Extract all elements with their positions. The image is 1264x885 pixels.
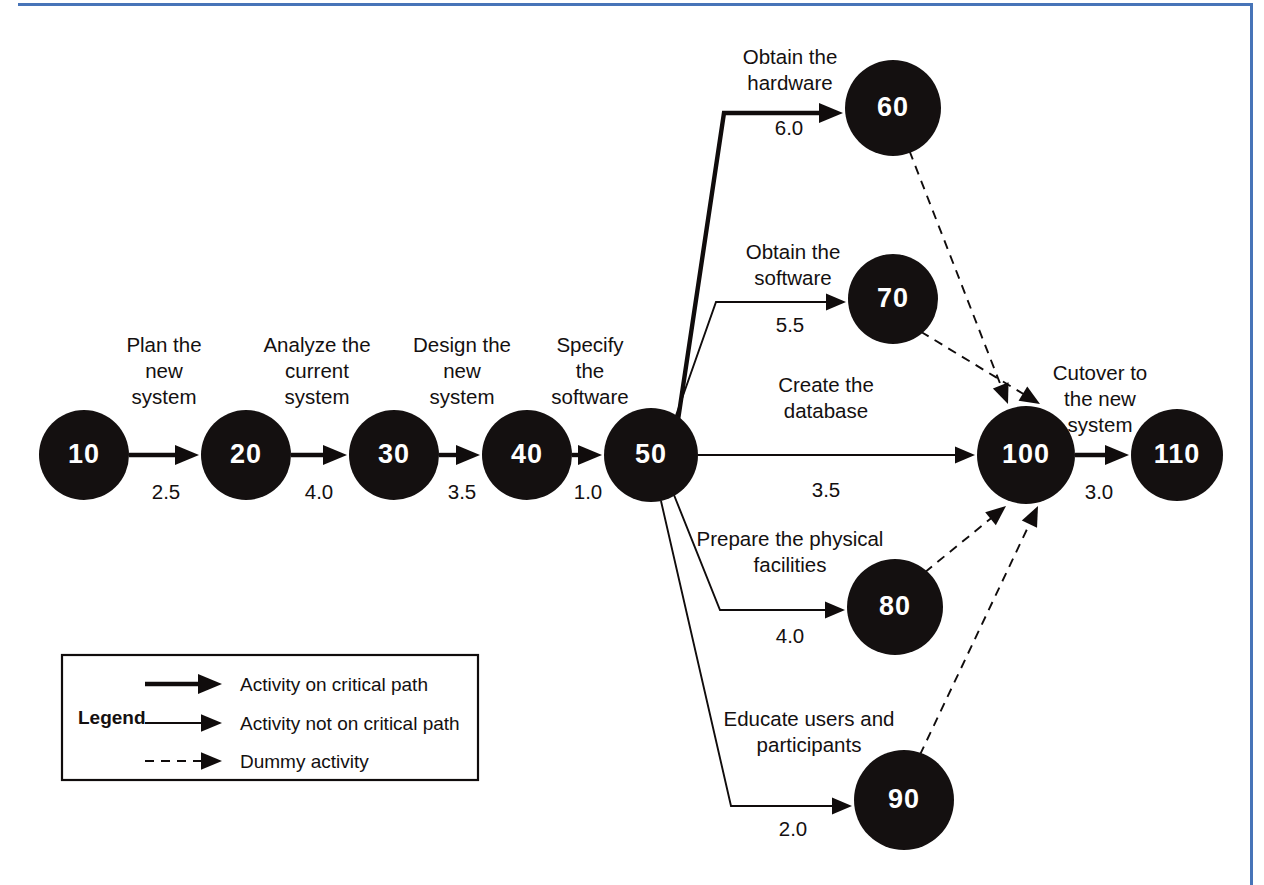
activity-name-line: hardware: [747, 71, 832, 94]
activity-label-a10-20: Plan thenewsystem2.5: [126, 333, 201, 503]
edge-50-to-90-arrow-icon: [832, 798, 852, 815]
edge-40-to-50-arrow-icon: [578, 445, 602, 465]
activity-duration-a40-50: 1.0: [574, 480, 603, 503]
edge-90-to-100-line: [920, 522, 1030, 754]
edge-50-to-80-arrow-icon: [825, 602, 845, 619]
node-label-30: 30: [378, 439, 410, 469]
node-label-60: 60: [877, 92, 909, 122]
node-10[interactable]: 10: [39, 410, 129, 500]
activity-name-a100-110: Cutover tothe newsystem: [1053, 361, 1148, 436]
node-30[interactable]: 30: [349, 410, 439, 500]
activity-name-a50-90: Educate users andparticipants: [724, 707, 895, 756]
edge-10-to-20-arrow-icon: [175, 445, 199, 465]
activity-name-a40-50: Specifythesoftware: [551, 333, 628, 408]
edge-80-to-100-line: [925, 517, 992, 572]
activity-duration-a10-20: 2.5: [152, 480, 181, 503]
edge-70-to-100-arrow-icon: [1019, 386, 1040, 404]
node-label-100: 100: [1002, 439, 1050, 469]
page-canvas: 102030405060708090100110 Plan thenewsyst…: [0, 0, 1264, 885]
activity-name-line: Obtain the: [743, 45, 838, 68]
activity-duration-a50-60: 6.0: [775, 116, 804, 139]
activity-name-line: software: [551, 385, 628, 408]
edge-100-to-110: [1075, 445, 1129, 465]
edge-80-to-100-arrow-icon: [985, 506, 1006, 525]
node-label-70: 70: [877, 283, 909, 313]
edge-70-to-100-line: [921, 332, 1025, 395]
activity-duration-a30-40: 3.5: [448, 480, 477, 503]
node-100[interactable]: 100: [977, 406, 1075, 504]
activity-name-line: system: [132, 385, 197, 408]
edge-10-to-20: [129, 445, 199, 465]
edge-90-to-100-arrow-icon: [1022, 506, 1038, 528]
activity-name-line: Specify: [556, 333, 624, 356]
activity-name-line: Prepare the physical: [697, 527, 884, 550]
legend-label-critical: Activity on critical path: [240, 674, 428, 695]
node-label-10: 10: [68, 439, 100, 469]
activity-name-line: software: [754, 266, 831, 289]
edge-50-to-70-arrow-icon: [826, 294, 846, 311]
activity-label-a50-70: Obtain thesoftware5.5: [746, 240, 841, 336]
node-90[interactable]: 90: [854, 750, 954, 850]
activity-duration-a50-90: 2.0: [779, 817, 808, 840]
legend-label-dummy: Dummy activity: [240, 751, 369, 772]
node-70[interactable]: 70: [848, 254, 938, 344]
legend-label-normal: Activity not on critical path: [240, 713, 460, 734]
node-label-80: 80: [879, 591, 911, 621]
activity-name-line: facilities: [754, 553, 827, 576]
activity-name-line: Create the: [778, 373, 874, 396]
edge-80-to-100: [925, 506, 1006, 572]
activity-name-line: Educate users and: [724, 707, 895, 730]
activity-name-line: Cutover to: [1053, 361, 1148, 384]
node-20[interactable]: 20: [201, 410, 291, 500]
node-label-110: 110: [1154, 439, 1201, 469]
activity-label-a50-100: Create thedatabase3.5: [778, 373, 874, 501]
activity-name-line: the: [576, 359, 605, 382]
activity-name-a50-60: Obtain thehardware: [743, 45, 838, 94]
node-110[interactable]: 110: [1131, 409, 1223, 501]
node-40[interactable]: 40: [482, 410, 572, 500]
node-label-20: 20: [230, 439, 262, 469]
activity-name-line: current: [285, 359, 349, 382]
activity-name-line: system: [1068, 413, 1133, 436]
activity-name-line: Analyze the: [263, 333, 370, 356]
activity-duration-a50-70: 5.5: [776, 313, 805, 336]
node-60[interactable]: 60: [845, 60, 941, 156]
edge-60-to-100-arrow-icon: [993, 382, 1009, 404]
activity-name-line: Design the: [413, 333, 511, 356]
legend-layer: LegendActivity on critical pathActivity …: [62, 655, 478, 780]
activity-name-a10-20: Plan thenewsystem: [126, 333, 201, 408]
activity-name-line: new: [145, 359, 183, 382]
activity-label-a50-60: Obtain thehardware6.0: [743, 45, 838, 139]
edge-20-to-30-arrow-icon: [323, 445, 347, 465]
activity-name-a50-100: Create thedatabase: [778, 373, 874, 422]
edge-50-to-80-line: [672, 490, 830, 610]
activity-name-line: database: [784, 399, 868, 422]
edge-20-to-30: [291, 445, 347, 465]
edge-30-to-40: [439, 445, 480, 465]
node-50[interactable]: 50: [604, 408, 698, 502]
activity-duration-a50-80: 4.0: [776, 624, 805, 647]
activity-name-line: system: [430, 385, 495, 408]
activity-duration-a50-100: 3.5: [812, 478, 841, 501]
edge-50-to-100-arrow-icon: [955, 447, 975, 464]
activity-duration-a100-110: 3.0: [1085, 480, 1114, 503]
edge-90-to-100: [920, 506, 1038, 755]
node-80[interactable]: 80: [847, 559, 943, 655]
activity-duration-a20-30: 4.0: [305, 480, 334, 503]
node-label-50: 50: [635, 439, 667, 469]
edge-50-to-100: [698, 447, 975, 464]
activity-name-line: Plan the: [126, 333, 201, 356]
activity-name-line: Obtain the: [746, 240, 841, 263]
edge-50-to-60-arrow-icon: [819, 103, 843, 123]
legend-title: Legend: [78, 707, 146, 728]
pert-network-diagram: 102030405060708090100110 Plan thenewsyst…: [0, 0, 1264, 885]
activity-name-a30-40: Design thenewsystem: [413, 333, 511, 408]
activity-name-a50-80: Prepare the physicalfacilities: [697, 527, 884, 576]
activity-name-line: new: [443, 359, 481, 382]
activity-name-line: system: [285, 385, 350, 408]
node-label-90: 90: [888, 784, 920, 814]
node-label-40: 40: [511, 439, 543, 469]
activity-name-line: participants: [757, 733, 862, 756]
edge-30-to-40-arrow-icon: [456, 445, 480, 465]
activity-name-a50-70: Obtain thesoftware: [746, 240, 841, 289]
